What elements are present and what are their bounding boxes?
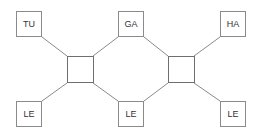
node-label: LE	[125, 109, 136, 119]
node-label: LE	[227, 109, 238, 119]
node-le-middle: LE	[118, 101, 144, 127]
node-label: HA	[227, 19, 240, 29]
node-label: TU	[23, 19, 35, 29]
node-label: LE	[23, 109, 34, 119]
node-ha: HA	[220, 11, 246, 37]
hub-right	[168, 56, 195, 83]
node-le-left: LE	[16, 101, 42, 127]
node-tu: TU	[16, 11, 42, 37]
node-le-right: LE	[220, 101, 246, 127]
node-ga: GA	[118, 11, 144, 37]
node-label: GA	[124, 19, 137, 29]
hub-left	[67, 56, 94, 83]
